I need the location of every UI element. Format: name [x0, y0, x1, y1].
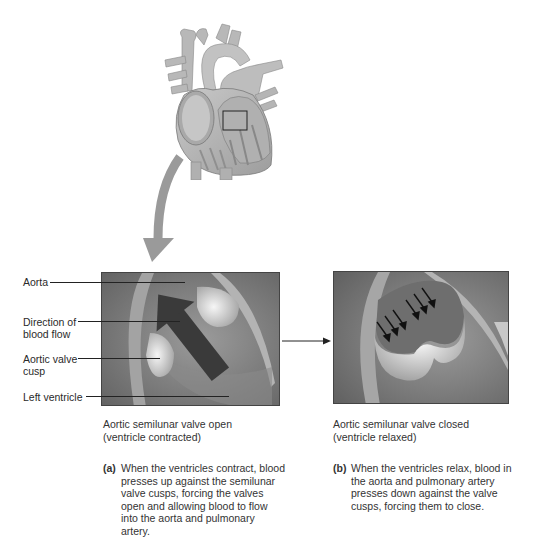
callout-arrow-icon: [130, 150, 200, 265]
description-b: (b) When the ventricles relax, blood in …: [333, 462, 533, 512]
leader-line-blood-flow: [78, 321, 180, 322]
valve-open-illustration: [102, 273, 280, 406]
panel-tag-a: (a): [103, 462, 116, 475]
label-direction-of-blood-flow: Direction of blood flow: [23, 316, 76, 340]
label-aortic-valve-cusp: Aortic valve cusp: [23, 353, 77, 377]
leader-line-valve-cusp: [78, 358, 160, 359]
panel-tag-b: (b): [333, 462, 346, 475]
right-arrow-icon: [282, 336, 332, 346]
description-a: (a) When the ventricles contract, blood …: [103, 462, 293, 537]
inset-box: [223, 111, 247, 130]
panel-valve-open: [101, 272, 280, 406]
panel-valve-closed: [333, 271, 509, 404]
description-a-text: When the ventricles contract, blood pres…: [121, 462, 293, 537]
label-aorta: Aorta: [23, 276, 48, 288]
caption-closed-line1: Aortic semilunar valve closed: [333, 418, 469, 431]
caption-valve-closed: Aortic semilunar valve closed (ventricle…: [333, 418, 469, 443]
label-left-ventricle: Left ventricle: [23, 391, 83, 403]
leader-line-aorta: [50, 282, 185, 283]
valve-closed-illustration: [334, 272, 509, 404]
caption-valve-open: Aortic semilunar valve open (ventricle c…: [103, 418, 232, 443]
description-b-text: When the ventricles relax, blood in the …: [351, 462, 533, 512]
leader-line-left-ventricle: [86, 396, 229, 397]
caption-open-line2: (ventricle contracted): [103, 431, 232, 444]
caption-closed-line2: (ventricle relaxed): [333, 431, 469, 444]
caption-open-line1: Aortic semilunar valve open: [103, 418, 232, 431]
